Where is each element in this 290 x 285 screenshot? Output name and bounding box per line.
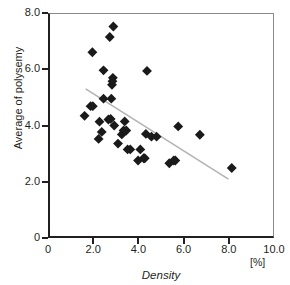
data-point xyxy=(135,144,145,154)
data-point xyxy=(142,66,152,76)
data-point xyxy=(99,65,109,75)
x-tick-label: 6.0 xyxy=(164,243,204,255)
plot-area xyxy=(48,13,274,238)
data-point xyxy=(87,47,97,57)
y-tick-label: 8.0 xyxy=(4,7,40,18)
x-tick-label: 0 xyxy=(28,243,68,255)
data-point xyxy=(173,121,183,131)
x-tick-label: 10.0 xyxy=(254,243,290,255)
data-point xyxy=(152,132,162,142)
data-point xyxy=(227,163,237,173)
x-axis-label: Density xyxy=(48,269,274,281)
data-point xyxy=(80,111,90,121)
data-point xyxy=(120,116,130,126)
data-point xyxy=(95,117,105,127)
scatter-chart: 02.04.06.08.0 02.04.06.08.010.0 Average … xyxy=(0,0,290,285)
x-tick-label: 8.0 xyxy=(209,243,249,255)
data-points xyxy=(80,22,237,173)
x-tick-label: 2.0 xyxy=(73,243,113,255)
data-point xyxy=(108,22,118,32)
data-layer xyxy=(50,14,273,236)
y-axis-label: Average of polysemy xyxy=(12,28,24,168)
x-axis-unit-label: [%] xyxy=(250,256,265,268)
data-point xyxy=(113,139,123,149)
x-tick-label: 4.0 xyxy=(118,243,158,255)
y-tick-label: 0 xyxy=(4,232,40,243)
y-tick-label: 2.0 xyxy=(4,176,40,187)
data-point xyxy=(195,130,205,140)
data-point xyxy=(105,32,115,42)
